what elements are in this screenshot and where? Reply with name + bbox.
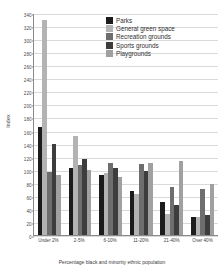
legend-item[interactable]: Parks	[106, 17, 175, 24]
y-axis-tick-label: 120	[24, 156, 32, 161]
legend-swatch-icon	[106, 33, 113, 40]
bar-group	[69, 14, 92, 235]
legend-swatch-icon	[106, 50, 113, 57]
y-axis-tick-label: 200	[24, 104, 32, 109]
y-axis-tick-label: 180	[24, 117, 32, 122]
legend-swatch-icon	[106, 25, 113, 32]
y-axis-tick-label: 100	[24, 169, 32, 174]
y-axis-tick-label: 260	[24, 65, 32, 70]
y-axis-tick-label: 40	[26, 208, 31, 213]
bar	[118, 177, 123, 235]
y-axis-tick-label: 80	[26, 182, 31, 187]
legend-item-label: Sports grounds	[116, 42, 159, 49]
gridline: 0	[34, 236, 218, 237]
x-axis-title: Percentage black and minority ethnic pop…	[0, 259, 224, 265]
x-axis-tick-label: 2-5%	[64, 238, 94, 243]
legend-swatch-icon	[106, 42, 113, 49]
y-axis-tick-label: 320	[24, 26, 32, 31]
y-axis-tick-label: 240	[24, 78, 32, 83]
y-axis-tick-label: 160	[24, 130, 32, 135]
legend-item-label: General green space	[116, 25, 175, 32]
bar	[56, 175, 61, 235]
y-axis-tick-label: 20	[26, 221, 31, 226]
legend-item[interactable]: General green space	[106, 25, 175, 32]
legend-item-label: Playgrounds	[116, 50, 151, 57]
bar	[148, 163, 153, 235]
x-axis-tick-label: 21-40%	[157, 238, 187, 243]
y-axis-tick-label: 220	[24, 91, 32, 96]
bar	[87, 170, 92, 235]
y-axis-title: Index	[5, 101, 11, 141]
y-axis-tick-label: 60	[26, 195, 31, 200]
legend-item[interactable]: Playgrounds	[106, 50, 175, 57]
y-axis-tick-label: 140	[24, 143, 32, 148]
legend-swatch-icon	[106, 17, 113, 24]
bar-group	[38, 14, 61, 235]
x-axis-tick-label: Under 2%	[33, 238, 63, 243]
legend-item-label: Recreation grounds	[116, 33, 171, 40]
chart-legend: ParksGeneral green spaceRecreation groun…	[106, 17, 175, 57]
legend-item[interactable]: Recreation grounds	[106, 33, 175, 40]
y-axis-tick-label: 280	[24, 52, 32, 57]
x-axis-tick-label: 6-10%	[95, 238, 125, 243]
y-axis-tick-label: 300	[24, 39, 32, 44]
legend-item-label: Parks	[116, 17, 132, 24]
legend-item[interactable]: Sports grounds	[106, 42, 175, 49]
bar	[179, 161, 184, 235]
bar	[210, 184, 215, 235]
x-axis-tick-label: 11-20%	[126, 238, 156, 243]
bar-group	[191, 14, 214, 235]
bar-chart-figure: Index 0204060801001201401601802002202402…	[0, 0, 224, 277]
x-axis-tick-label: Over 40%	[188, 238, 218, 243]
x-axis-tick-labels: Under 2%2-5%6-10%11-20%21-40%Over 40%	[33, 238, 218, 243]
y-axis-tick-label: 340	[24, 13, 32, 18]
